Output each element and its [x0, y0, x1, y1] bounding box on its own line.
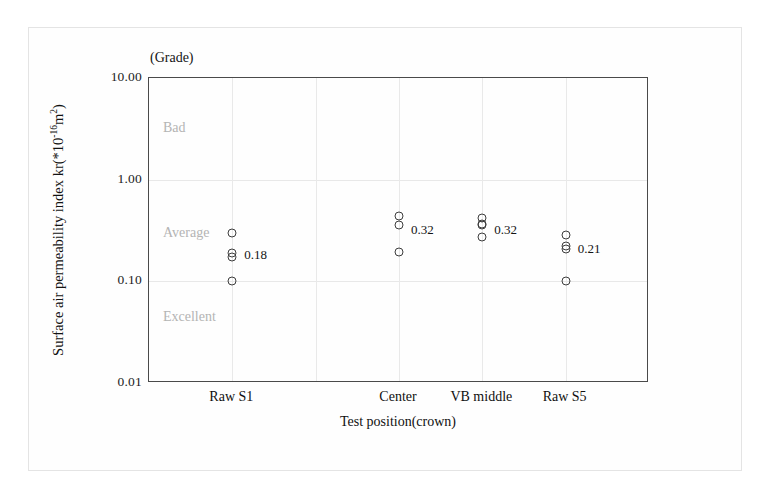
data-point-marker [561, 231, 570, 240]
y-axis-title-close: ) [50, 104, 66, 109]
plot-area: BadAverageExcellent0.180.320.320.21 [148, 77, 648, 382]
data-point-marker [561, 277, 570, 286]
data-point-value-label: 0.18 [244, 247, 267, 263]
y-axis-title-unit-exponent: 2 [49, 108, 59, 113]
x-tick-label: Raw S1 [209, 389, 253, 405]
y-tick-label: 0.10 [90, 272, 142, 288]
grade-zone-label: Average [163, 225, 209, 241]
data-point-value-label: 0.32 [494, 222, 517, 238]
data-point-value-label: 0.21 [578, 241, 601, 257]
data-point-marker [395, 247, 404, 256]
chart-page: Surface air permeability index kr(*10-16… [0, 0, 771, 499]
data-point-value-label: 0.32 [411, 222, 434, 238]
grade-zone-label: Bad [163, 120, 186, 136]
gridline-horizontal [149, 180, 647, 181]
y-axis-title-container: Surface air permeability index kr(*10-16… [44, 77, 72, 382]
grade-caption: (Grade) [150, 50, 194, 66]
x-tick-label: VB middle [450, 389, 512, 405]
data-point-marker [228, 228, 237, 237]
data-point-marker [478, 233, 487, 242]
x-tick-label: Center [379, 389, 416, 405]
data-point-marker [228, 277, 237, 286]
data-point-marker [395, 211, 404, 220]
data-point-marker [478, 221, 487, 230]
grade-zone-label: Excellent [163, 309, 216, 325]
x-axis-title: Test position(crown) [340, 414, 456, 430]
gridline-vertical [399, 78, 400, 381]
data-point-marker [561, 244, 570, 253]
data-point-marker [228, 252, 237, 261]
x-tick-label: Raw S5 [543, 389, 587, 405]
data-point-marker [395, 220, 404, 229]
y-axis-ticks: 10.001.000.100.01 [86, 77, 142, 382]
y-axis-title: Surface air permeability index kr(*10-16… [49, 104, 67, 356]
y-tick-label: 0.01 [90, 374, 142, 390]
y-axis-title-exponent: -16 [49, 124, 59, 137]
y-tick-label: 10.00 [90, 69, 142, 85]
y-axis-title-unit: m [50, 113, 66, 124]
gridline-vertical [316, 78, 317, 381]
y-axis-title-main: Surface air permeability index kr(*10 [50, 137, 66, 355]
y-tick-label: 1.00 [90, 171, 142, 187]
gridline-horizontal [149, 281, 647, 282]
gridline-vertical [566, 78, 567, 381]
